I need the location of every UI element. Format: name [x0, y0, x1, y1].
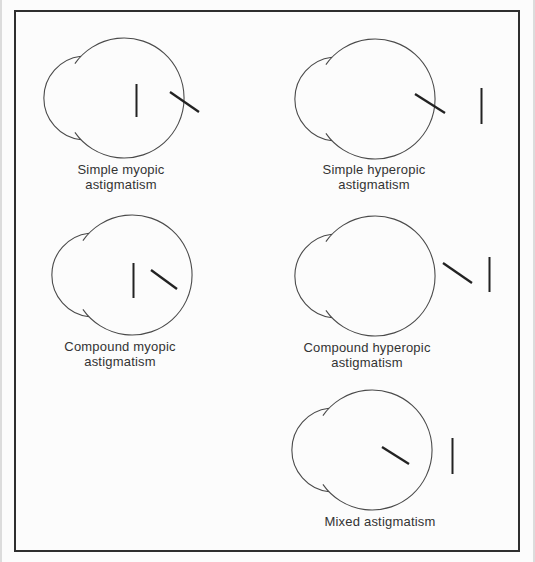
- label-compound-hyperopic-line2: astigmatism: [282, 355, 452, 370]
- label-simple-hyperopic-line2: astigmatism: [289, 177, 459, 192]
- label-compound-myopic-line2: astigmatism: [35, 354, 205, 369]
- label-compound-myopic-line1: Compound myopic: [35, 339, 205, 354]
- focal-line-oblique-compound-myopic: [151, 270, 177, 289]
- eye-compound-myopic: [52, 215, 192, 335]
- eye-simple-hyperopic: [295, 39, 435, 159]
- astigmatism-figure: Simple myopic astigmatism Simple hyperop…: [0, 0, 535, 562]
- focal-line-oblique-simple-hyperopic: [415, 94, 445, 113]
- label-mixed-line1: Mixed astigmatism: [295, 514, 465, 529]
- focal-line-oblique-mixed: [382, 447, 409, 464]
- figure-drawing: [0, 0, 535, 562]
- label-mixed: Mixed astigmatism: [295, 514, 465, 529]
- label-simple-hyperopic-line1: Simple hyperopic: [289, 162, 459, 177]
- label-simple-myopic-line2: astigmatism: [36, 177, 206, 192]
- focal-line-oblique-compound-hyperopic: [443, 263, 472, 283]
- label-simple-hyperopic: Simple hyperopic astigmatism: [289, 162, 459, 192]
- label-compound-hyperopic-line1: Compound hyperopic: [282, 340, 452, 355]
- eye-mixed: [292, 390, 432, 510]
- label-compound-myopic: Compound myopic astigmatism: [35, 339, 205, 369]
- eye-compound-hyperopic: [295, 216, 435, 336]
- label-simple-myopic: Simple myopic astigmatism: [36, 162, 206, 192]
- label-simple-myopic-line1: Simple myopic: [36, 162, 206, 177]
- eye-simple-myopic: [44, 38, 184, 158]
- label-compound-hyperopic: Compound hyperopic astigmatism: [282, 340, 452, 370]
